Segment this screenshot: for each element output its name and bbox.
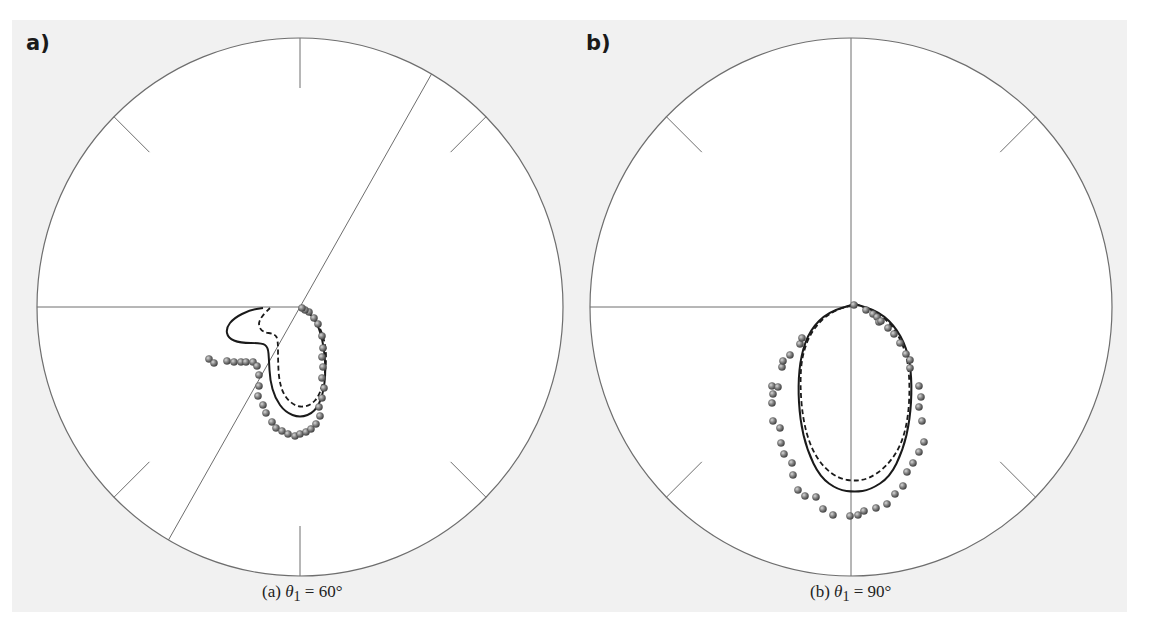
measured-data-point [318, 394, 325, 401]
caption-a-prefix: (a) [262, 582, 285, 601]
measured-data-point [259, 401, 266, 408]
polar-plot-b [590, 38, 1112, 576]
measured-data-point [262, 409, 269, 416]
measured-data-point [780, 450, 787, 457]
measured-data-point [223, 357, 230, 364]
measured-data-point [918, 417, 925, 424]
measured-data-point [768, 399, 775, 406]
measured-data-point [884, 324, 891, 331]
measured-data-point [883, 500, 890, 507]
measured-data-point [909, 459, 916, 466]
polar-plot-a [37, 38, 563, 576]
measured-data-point [315, 403, 322, 410]
measured-data-point [801, 492, 808, 499]
measured-data-point [903, 468, 910, 475]
measured-data-point [776, 424, 783, 431]
measured-data-point [819, 505, 826, 512]
measured-data-point [210, 359, 217, 366]
measured-data-point [255, 382, 262, 389]
measured-data-point [798, 334, 805, 341]
measured-data-point [877, 317, 884, 324]
measured-data-point [829, 511, 836, 518]
measured-data-point [318, 353, 325, 360]
measured-data-point [284, 430, 291, 437]
measured-data-point [920, 438, 927, 445]
measured-data-point [890, 330, 897, 337]
measured-data-point [899, 482, 906, 489]
measured-data-point [319, 363, 326, 370]
measured-data-point [896, 339, 903, 346]
measured-data-point [318, 374, 325, 381]
measured-data-point [310, 314, 317, 321]
caption-b-subscript: 1 [842, 588, 849, 604]
measured-data-point [242, 358, 249, 365]
caption-a: (a) θ1 = 60° [262, 582, 342, 605]
measured-data-point [906, 356, 913, 363]
measured-data-point [891, 490, 898, 497]
measured-data-point [788, 459, 795, 466]
measured-data-point [915, 403, 922, 410]
measured-data-point [312, 420, 319, 427]
measured-data-point [318, 332, 325, 339]
measured-data-point [316, 412, 323, 419]
measured-data-point [254, 392, 261, 399]
measured-data-point [906, 364, 913, 371]
measured-data-point [854, 511, 861, 518]
caption-b: (b) θ1 = 90° [810, 582, 891, 605]
measured-data-point [230, 358, 237, 365]
measured-data-point [915, 382, 922, 389]
measured-data-point [850, 301, 857, 308]
measured-data-point [320, 384, 327, 391]
measured-data-point [253, 362, 260, 369]
measured-data-point [915, 448, 922, 455]
measured-data-point [872, 504, 879, 511]
measured-data-point [794, 486, 801, 493]
caption-a-value: = 60° [301, 582, 343, 601]
measured-data-point [769, 390, 776, 397]
measured-data-point [319, 344, 326, 351]
measured-data-point [917, 393, 924, 400]
measured-data-point [769, 417, 776, 424]
measured-data-point [846, 512, 853, 519]
measured-data-point [786, 351, 793, 358]
measured-data-point [812, 493, 819, 500]
measured-data-point [298, 304, 305, 311]
measured-data-point [789, 471, 796, 478]
caption-b-prefix: (b) [810, 582, 834, 601]
polar-plots [0, 0, 1149, 631]
measured-data-point [774, 383, 781, 390]
caption-a-subscript: 1 [293, 588, 300, 604]
caption-b-value: = 90° [850, 582, 892, 601]
measured-data-point [779, 357, 786, 364]
measured-data-point [255, 371, 262, 378]
measured-data-point [777, 439, 784, 446]
measured-data-point [862, 306, 869, 313]
